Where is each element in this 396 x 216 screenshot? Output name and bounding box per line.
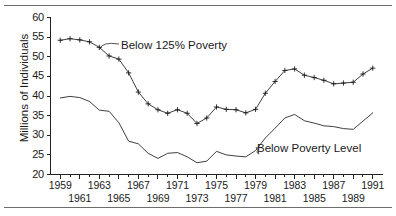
x-tick-label: 1961 bbox=[60, 193, 100, 204]
series-label-below-poverty-level: Below Poverty Level bbox=[257, 142, 361, 154]
annotation-leader-lines bbox=[99, 43, 259, 154]
x-tick-label: 1963 bbox=[79, 180, 119, 191]
x-tick-label: 1969 bbox=[138, 193, 178, 204]
x-tick-label: 1989 bbox=[333, 193, 373, 204]
y-tick-label: 25 bbox=[18, 149, 44, 160]
x-tick-label: 1965 bbox=[99, 193, 139, 204]
x-tick-label: 1987 bbox=[314, 180, 354, 191]
y-tick-label: 35 bbox=[18, 110, 44, 121]
x-tick-label: 1983 bbox=[275, 180, 315, 191]
x-tick-label: 1975 bbox=[197, 180, 237, 191]
chart-figure: Millions of Individuals 2025303540455055… bbox=[0, 0, 396, 216]
x-tick-label: 1971 bbox=[157, 180, 197, 191]
x-tick-label: 1973 bbox=[177, 193, 217, 204]
y-tick-label: 20 bbox=[18, 169, 44, 180]
y-tick-label: 30 bbox=[18, 129, 44, 140]
x-tick-label: 1981 bbox=[255, 193, 295, 204]
series-label-below-125-poverty: Below 125% Poverty bbox=[121, 39, 227, 51]
y-tick-label: 45 bbox=[18, 70, 44, 81]
y-tick-label: 40 bbox=[18, 90, 44, 101]
y-tick-label: 50 bbox=[18, 51, 44, 62]
x-tick-label: 1977 bbox=[216, 193, 256, 204]
x-tick-label: 1959 bbox=[40, 180, 80, 191]
x-tick-label: 1985 bbox=[294, 193, 334, 204]
x-tick-label: 1967 bbox=[118, 180, 158, 191]
x-tick-label: 1991 bbox=[353, 180, 393, 191]
y-tick-label: 55 bbox=[18, 31, 44, 42]
x-tick-label: 1979 bbox=[236, 180, 276, 191]
y-tick-label: 60 bbox=[18, 12, 44, 23]
